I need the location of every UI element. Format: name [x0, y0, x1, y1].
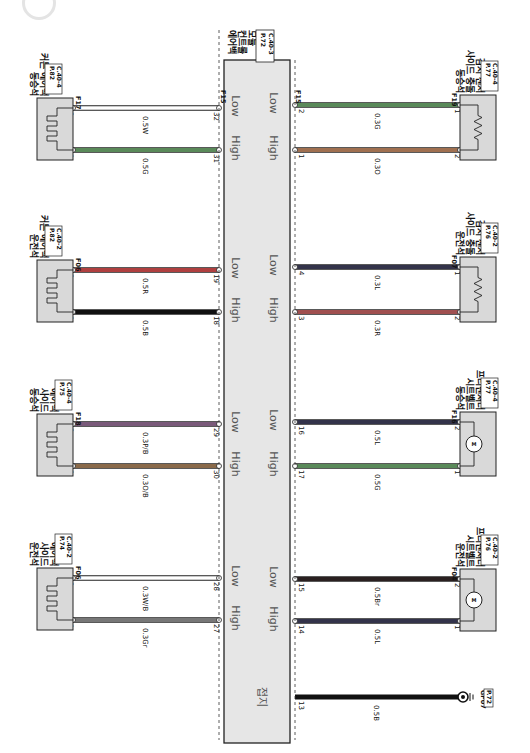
wire-spec-label: 0.3R [373, 320, 381, 336]
component-right-2: F07운전석사이드 충돌감지 센서P.76C.40-2 [450, 212, 499, 322]
module-connector-right: F15 [294, 90, 302, 104]
component-name-line: 사이드 충돌 [465, 212, 476, 255]
wire-spec-label: 0.5W [141, 116, 149, 134]
component-ref: C.40-4 [56, 66, 63, 88]
pin-level-high: High [267, 451, 280, 476]
component-ref: P.77 [485, 63, 492, 77]
component-right-3: MF16동승석시트벨트프리텐셔너P.77C.40-4 [450, 370, 499, 476]
wire-spec-label: 0.5G [141, 158, 149, 175]
component-name-line: 동승석 [455, 386, 466, 410]
module-ref: P.72 [260, 33, 267, 47]
module-pin: 1 [297, 154, 305, 158]
pin-level-low: Low [229, 95, 242, 117]
component-ref: P.75 [59, 382, 66, 396]
module-pin: 15 [297, 583, 305, 592]
component-name-line: 시트벨트 [465, 378, 476, 411]
module-pin: 17 [297, 470, 305, 479]
component-box [37, 260, 73, 322]
pin-level-high: High [229, 297, 242, 322]
component-name-line: 사이드 [39, 388, 50, 413]
pin-level-high: High [229, 451, 242, 476]
pin-level-high: High [267, 297, 280, 322]
module-pin: 13 [297, 701, 305, 710]
component-name-line: 사이드 [39, 542, 50, 567]
component-ref: C.40-4 [492, 380, 499, 402]
component-ref: C.40-2 [66, 536, 73, 558]
motor-m-glyph: M [472, 597, 477, 603]
component-connector: F19 [450, 93, 458, 107]
component-connector: F06 [74, 566, 82, 580]
component-ref: C.40-2 [56, 228, 63, 250]
component-name-line: 동승석 [29, 72, 40, 96]
wire-spec-label: 0.3O/B [141, 474, 149, 498]
component-connector: F07 [450, 255, 458, 269]
module-name-line: 컨트롤 [237, 30, 248, 54]
component-ref: P.82 [49, 228, 56, 242]
wire-spec-label: 0.3O [373, 158, 381, 175]
ground-icon-dot [461, 695, 465, 699]
wire-spec-label: 0.3P/B [141, 432, 149, 455]
pin-level-low: Low [229, 411, 242, 433]
module-ref: C.40-3 [268, 33, 275, 55]
motor-m-glyph: M [472, 441, 477, 447]
pin-level-high: High [267, 135, 280, 160]
component-ref: P.74 [59, 536, 66, 550]
module-name-line: 모듈 [247, 30, 257, 46]
component-ref: C.40-4 [66, 382, 73, 404]
module-pin: 3 [297, 316, 305, 320]
component-ref: P.76 [485, 537, 492, 551]
component-name-line: 사이드 충돌 [465, 50, 476, 93]
component-name-line: 운전석 [455, 231, 466, 255]
pin-level-low: Low [267, 92, 280, 114]
component-name-line: 시트벨트 [465, 535, 476, 568]
pin-level-low: Low [267, 254, 280, 276]
component-ref: C.40-2 [492, 537, 499, 559]
component-top-left-1: F17동승석커튼 에어백P.82C.40-4 [29, 53, 82, 160]
module-connector-left: F15 [219, 90, 227, 104]
wire-spec-label: 0.3L [373, 275, 381, 290]
pin-level-low: Low [267, 566, 280, 588]
module-pin: 16 [297, 426, 305, 435]
component-right-4: MF04운전석시트벨트프리텐셔너P.76C.40-2 [450, 527, 499, 631]
wire-spec-label: 0.5Br [373, 587, 381, 606]
component-box [37, 98, 73, 160]
airbag-control-module [224, 60, 290, 743]
module-pin: 4 [297, 271, 305, 276]
component-name-line: 운전석 [455, 543, 466, 567]
component-connector: F17 [74, 96, 82, 110]
wire-spec-label: 0.5B [372, 705, 380, 721]
pin-level-high: High [229, 135, 242, 160]
component-name-line: 운전석 [29, 234, 40, 258]
component-box [37, 568, 73, 630]
component-name-line: 동승석 [455, 69, 466, 93]
pin-level-high: High [267, 606, 280, 631]
pin-level-low: Low [267, 409, 280, 431]
module-pin: 2 [297, 109, 305, 113]
wire-spec-label: 0.5L [373, 430, 381, 445]
wire-spec-label: 0.5B [141, 320, 149, 336]
wire-spec-label: 0.3Gr [141, 628, 149, 648]
component-right-1: F19동승석사이드 충돌감지 센서P.77C.40-4 [450, 50, 499, 160]
component-ref: P.82 [49, 66, 56, 80]
component-ref: P.77 [485, 380, 492, 394]
pin-level-low: Low [229, 257, 242, 279]
pin-level-high: High [229, 605, 242, 630]
component-box [37, 414, 73, 476]
ground-pin-label: 접지 [255, 687, 268, 707]
component-name-line: 동승석 [29, 388, 40, 412]
component-top-left-2: F06운전석커튼 에어백P.82C.40-2 [29, 215, 82, 322]
component-connector: F04 [450, 567, 458, 581]
component-ref: P.76 [485, 225, 492, 239]
wire-spec-label: 0.5R [141, 278, 149, 294]
ground-ref: P.72 [486, 690, 493, 704]
wiring-diagram: 0.5W2320.5G1310.5R2190.5B1180.3P/B2290.3… [0, 0, 530, 753]
module-name-line: 에어백 [227, 30, 238, 54]
component-connector: F18 [74, 412, 82, 426]
module-pin: 14 [297, 625, 305, 634]
wire-spec-label: 0.3G [373, 113, 381, 130]
component-name-line: 운전석 [29, 542, 40, 566]
wire-spec-label: 0.5L [373, 629, 381, 644]
component-connector: F16 [450, 410, 458, 424]
wire-spec-label: 0.5G [373, 474, 381, 491]
component-ref: C.40-2 [492, 225, 499, 247]
